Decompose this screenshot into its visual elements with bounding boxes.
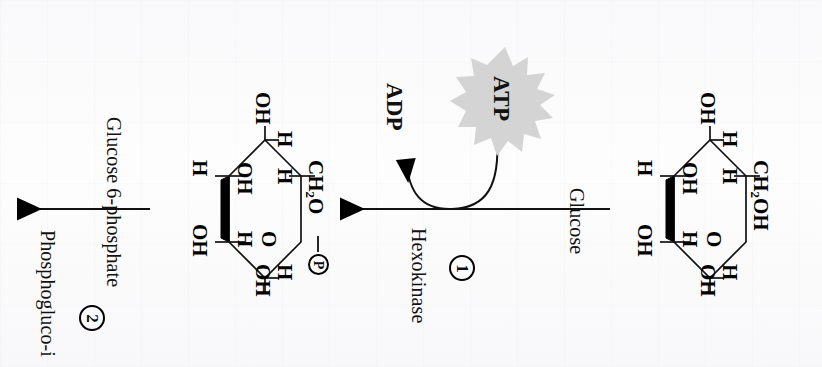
glucose-ring-bold-edge (666, 176, 674, 242)
g6p-atom-c2-h: H (274, 168, 295, 184)
g6p-atom-ring-oxygen: O (258, 231, 279, 247)
glucose-atom-c4-h: H (634, 160, 655, 176)
figure-canvas: OH H H OH H OH H O OH H CH2OH OH H H OH … (0, 0, 822, 367)
step-number-2-text: 2 (84, 314, 101, 323)
g6p-atom-c4-oh: OH (234, 162, 255, 195)
step-number-1-text: 1 (454, 264, 471, 273)
glucose-atom-c4-oh: OH (679, 162, 700, 195)
g6p-atom-c3-h: H (274, 264, 295, 280)
glucose-atom-c2-h: H (719, 168, 740, 184)
glucose-atom-c5-h: H (679, 231, 700, 247)
glucose-atom-c1-h: H (719, 131, 740, 147)
label-glucose: Glucose (567, 188, 587, 254)
label-glucose-6-phosphate: Glucose 6-phosphate (104, 117, 124, 287)
g6p-atom-c1-oh: OH (252, 92, 273, 125)
label-phosphoglucoisomerase: Phosphogluco-i (38, 230, 58, 357)
step-number-1-badge: 1 (449, 255, 475, 281)
g6p-c6-ch: CH (304, 160, 328, 192)
glucose-atom-ring-oxygen: O (703, 231, 724, 247)
glucose-ring-outline (674, 140, 746, 278)
g6p-c6-oxygen: O (304, 198, 328, 214)
label-hexokinase: Hexokinase (409, 228, 429, 323)
label-adp: ADP (383, 83, 406, 131)
g6p-atom-c4-h: H (189, 160, 210, 176)
g6p-atom-c1-h: H (274, 131, 295, 147)
g6p-atom-c3-oh: OH (252, 264, 273, 297)
g6p-ring-bold-edge (221, 176, 229, 242)
glucose-c6-oh: OH (749, 198, 773, 231)
g6p-atom-c5-h: H (234, 231, 255, 247)
g6p-ring-outline (229, 140, 301, 278)
g6p-c6-group: CH2O (304, 160, 326, 214)
glucose-c6-group: CH2OH (749, 160, 771, 231)
glucose-atom-c1-oh: OH (697, 92, 718, 125)
glucose-atom-c3-oh: OH (697, 264, 718, 297)
label-atp: ATP (490, 76, 513, 122)
phosphate-circle-icon: P (308, 254, 329, 275)
phosphate-letter: P (312, 260, 326, 269)
glucose-atom-c3-h: H (719, 264, 740, 280)
cofactor-curved-arrow-atp-to-adp (406, 137, 497, 209)
step-number-2-badge: 2 (79, 305, 105, 331)
glucose-c6-ch: CH (749, 160, 773, 192)
g6p-atom-c5-oh: OH (189, 224, 210, 257)
glucose-atom-c5-oh: OH (634, 224, 655, 257)
